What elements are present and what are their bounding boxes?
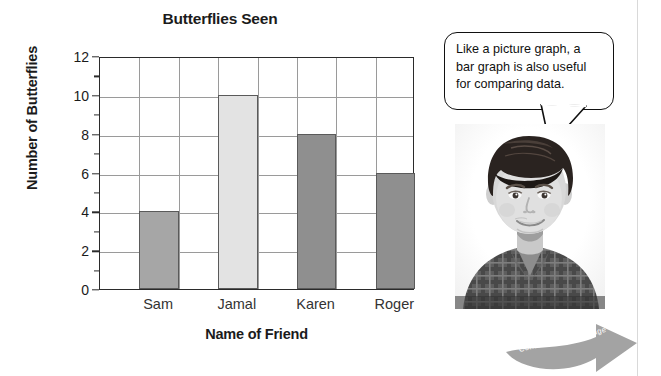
y-tick-label: 8 — [55, 127, 89, 143]
y-tick-minor — [94, 270, 99, 271]
y-tick-label: 12 — [55, 49, 89, 65]
y-tick-label: 4 — [55, 204, 89, 220]
x-tick-label-sam: Sam — [143, 296, 173, 312]
speech-bubble-line-3: for comparing data. — [456, 76, 603, 94]
speech-bubble-line-2: bar graph is also useful — [456, 59, 603, 77]
page-root: Butterflies Seen Number of Butterflies N… — [0, 0, 661, 376]
gridline-vertical — [336, 58, 337, 289]
y-tick-major — [92, 173, 99, 174]
y-tick-label: 10 — [55, 88, 89, 104]
y-tick-major — [92, 212, 99, 213]
bar-jamal — [218, 95, 257, 289]
page-margin-rule — [637, 0, 638, 376]
x-tick-label-roger: Roger — [375, 296, 415, 312]
speech-bubble-line-1: Like a picture graph, a — [456, 41, 603, 59]
boy-photo — [455, 124, 605, 309]
bar-sam — [139, 211, 178, 289]
y-tick-label: 2 — [55, 243, 89, 259]
speech-bubble: Like a picture graph, a bar graph is als… — [444, 32, 614, 110]
chart-title: Butterflies Seen — [0, 10, 440, 28]
y-tick-minor — [94, 153, 99, 154]
y-tick-major — [92, 134, 99, 135]
x-tick-label-karen: Karen — [296, 296, 335, 312]
bar-roger — [376, 173, 415, 290]
y-tick-major — [92, 250, 99, 251]
y-tick-minor — [94, 115, 99, 116]
y-tick-label: 0 — [55, 282, 89, 298]
y-tick-minor — [94, 76, 99, 77]
y-tick-major — [92, 289, 99, 290]
gridline-vertical — [258, 58, 259, 289]
y-axis-label: Number of Butterflies — [24, 28, 40, 208]
y-tick-major — [92, 56, 99, 57]
plot-area — [99, 57, 414, 290]
y-tick-label: 6 — [55, 166, 89, 182]
y-tick-minor — [94, 231, 99, 232]
bar-karen — [297, 134, 336, 289]
x-axis-label: Name of Friend — [99, 326, 414, 342]
y-tick-major — [92, 95, 99, 96]
x-tick-label-jamal: Jamal — [217, 296, 256, 312]
gridline-vertical — [179, 58, 180, 289]
y-tick-minor — [94, 192, 99, 193]
